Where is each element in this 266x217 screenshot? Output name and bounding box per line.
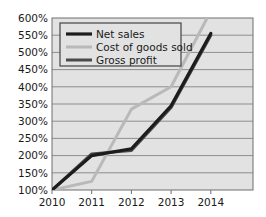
x-tick-label-2011: 2011 xyxy=(78,196,105,208)
y-tick-label-400: 400% xyxy=(18,81,48,93)
y-tick-label-450: 450% xyxy=(18,63,48,75)
legend-label-gross-profit[interactable]: Gross profit xyxy=(96,54,157,66)
x-tick-label-2013: 2013 xyxy=(158,196,185,208)
y-tick-label-300: 300% xyxy=(18,115,48,127)
y-tick-label-550: 550% xyxy=(18,29,48,41)
x-tick-label-2010: 2010 xyxy=(39,196,66,208)
y-tick-label-600: 600% xyxy=(18,12,48,24)
line-chart: 600%550%500%450%400%350%300%250%200%150%… xyxy=(0,0,266,217)
y-tick-label-250: 250% xyxy=(18,132,48,144)
legend[interactable]: Net salesCost of goods soldGross profit xyxy=(60,23,193,66)
y-tick-label-200: 200% xyxy=(18,149,48,161)
y-tick-label-100: 100% xyxy=(18,184,48,196)
y-axis-tick-labels: 600%550%500%450%400%350%300%250%200%150%… xyxy=(18,12,48,196)
x-tick-label-2012: 2012 xyxy=(118,196,145,208)
y-tick-label-350: 350% xyxy=(18,98,48,110)
legend-label-net-sales[interactable]: Net sales xyxy=(96,28,145,40)
chart-canvas: 600%550%500%450%400%350%300%250%200%150%… xyxy=(0,0,266,217)
x-tick-label-2014: 2014 xyxy=(197,196,224,208)
y-tick-label-500: 500% xyxy=(18,46,48,58)
legend-label-cost-of-goods-sold[interactable]: Cost of goods sold xyxy=(96,41,193,53)
y-tick-label-150: 150% xyxy=(18,167,48,179)
